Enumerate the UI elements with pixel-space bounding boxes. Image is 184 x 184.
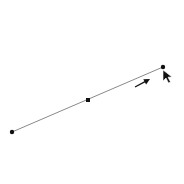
segment-midpoint-handle[interactable] [86, 98, 90, 102]
direction-arrow-icon [135, 79, 150, 87]
segment-end-point[interactable] [161, 65, 165, 69]
drawing-canvas[interactable] [0, 0, 184, 184]
mouse-pointer-icon [163, 70, 172, 83]
segment-start-point[interactable] [10, 130, 14, 134]
